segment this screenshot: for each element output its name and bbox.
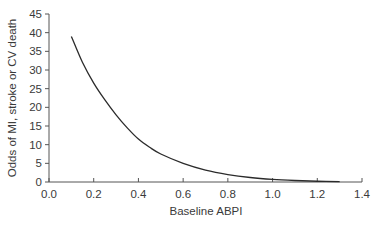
y-tick-label: 0 [36, 176, 42, 188]
y-tick-label: 25 [29, 83, 42, 95]
y-axis-ticks: 051015202530354045 [29, 8, 49, 188]
y-tick-label: 10 [29, 139, 42, 151]
x-tick-label: 0.8 [220, 188, 236, 200]
x-tick-label: 1.2 [309, 188, 325, 200]
svg-text:Odds of MI, stroke or CV death: Odds of MI, stroke or CV death [6, 19, 18, 178]
chart: Odds of MI, stroke or CV death 0.00.20.4… [0, 0, 375, 225]
x-tick-label: 0.0 [41, 188, 57, 200]
y-tick-label: 20 [29, 101, 42, 113]
data-series [71, 36, 339, 181]
x-tick-label: 0.4 [130, 188, 147, 200]
x-tick-label: 0.2 [86, 188, 102, 200]
y-tick-label: 40 [29, 27, 42, 39]
y-tick-label: 15 [29, 120, 42, 132]
y-tick-label: 5 [36, 157, 42, 169]
y-axis-label: Odds of MI, stroke or CV death [6, 19, 18, 178]
y-tick-label: 45 [29, 8, 42, 20]
x-tick-label: 0.6 [175, 188, 191, 200]
axes [49, 14, 362, 182]
x-axis-label: Baseline ABPI [170, 205, 243, 217]
y-tick-label: 30 [29, 64, 42, 76]
x-tick-label: 1.4 [354, 188, 371, 200]
series-line [71, 36, 339, 181]
x-tick-label: 1.0 [265, 188, 281, 200]
y-tick-label: 35 [29, 45, 42, 57]
